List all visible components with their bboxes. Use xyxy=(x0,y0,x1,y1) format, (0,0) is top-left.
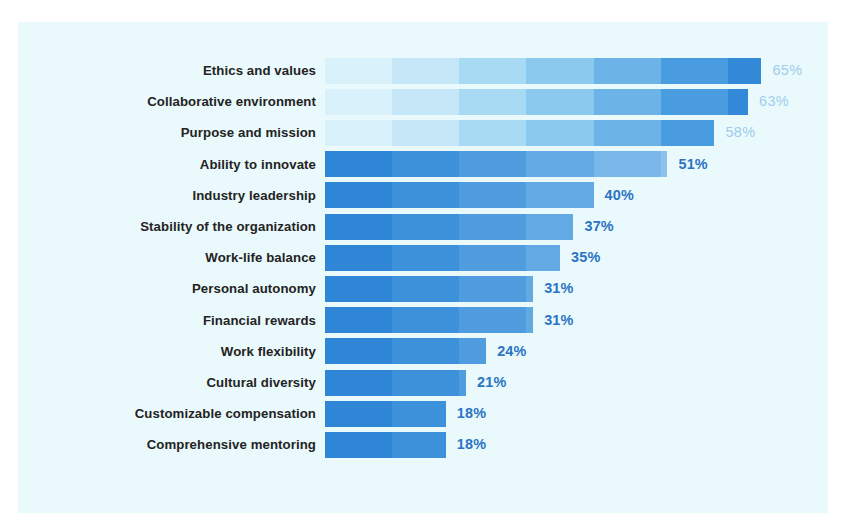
bar-fill xyxy=(325,58,761,84)
bar-category-label: Work flexibility xyxy=(221,336,316,367)
bar-fill xyxy=(325,338,486,364)
bar-fill xyxy=(325,401,446,427)
bar-track: 31% xyxy=(325,307,795,333)
bar-color-band xyxy=(526,245,560,271)
bar-row: Ability to innovate51% xyxy=(18,149,828,180)
bar-color-band xyxy=(325,245,392,271)
bar-row: Collaborative environment63% xyxy=(18,86,828,117)
bar-row: Cultural diversity21% xyxy=(18,367,828,398)
bar-track: 58% xyxy=(325,120,795,146)
bar-color-band xyxy=(459,245,526,271)
bar-track: 40% xyxy=(325,182,795,208)
bar-fill xyxy=(325,245,560,271)
bar-color-band xyxy=(392,120,459,146)
bar-color-band xyxy=(526,151,593,177)
bar-fill xyxy=(325,370,466,396)
bar-row: Personal autonomy31% xyxy=(18,273,828,304)
bar-track: 24% xyxy=(325,338,795,364)
bar-color-band xyxy=(325,276,392,302)
bar-category-label: Work-life balance xyxy=(205,242,316,273)
bar-color-band xyxy=(459,58,526,84)
bar-row: Stability of the organization37% xyxy=(18,211,828,242)
bar-value-label: 65% xyxy=(772,55,802,86)
bar-fill xyxy=(325,182,594,208)
bar-color-band xyxy=(526,120,593,146)
bar-value-label: 31% xyxy=(544,305,573,336)
bar-category-label: Stability of the organization xyxy=(140,211,316,242)
bar-color-band xyxy=(526,307,533,333)
bar-fill xyxy=(325,151,667,177)
bar-color-band xyxy=(392,432,446,458)
bar-value-label: 24% xyxy=(497,336,526,367)
bar-track: 18% xyxy=(325,401,795,427)
bar-category-label: Ethics and values xyxy=(203,55,316,86)
bar-color-band xyxy=(526,276,533,302)
bar-category-label: Purpose and mission xyxy=(181,117,316,148)
bar-fill xyxy=(325,307,533,333)
bar-color-band xyxy=(459,151,526,177)
bar-color-band xyxy=(325,401,392,427)
bar-color-band xyxy=(526,58,593,84)
bar-track: 35% xyxy=(325,245,795,271)
bar-track: 51% xyxy=(325,151,795,177)
bar-color-band xyxy=(392,214,459,240)
bar-color-band xyxy=(325,214,392,240)
bar-color-band xyxy=(526,182,593,208)
bar-fill xyxy=(325,432,446,458)
bar-color-band xyxy=(325,307,392,333)
bar-color-band xyxy=(526,89,593,115)
bar-value-label: 63% xyxy=(759,86,789,117)
bar-color-band xyxy=(325,89,392,115)
bar-value-label: 35% xyxy=(571,242,600,273)
bar-color-band xyxy=(325,58,392,84)
bar-color-band xyxy=(594,120,661,146)
bar-category-label: Customizable compensation xyxy=(135,398,316,429)
bar-value-label: 18% xyxy=(457,398,486,429)
bar-color-band xyxy=(325,432,392,458)
bar-category-label: Industry leadership xyxy=(192,180,316,211)
bar-color-band xyxy=(661,151,668,177)
bar-row: Ethics and values65% xyxy=(18,55,828,86)
bar-color-band xyxy=(325,182,392,208)
bar-color-band xyxy=(325,120,392,146)
bar-row: Comprehensive mentoring18% xyxy=(18,429,828,460)
bar-color-band xyxy=(728,89,748,115)
bar-color-band xyxy=(594,89,661,115)
bar-color-band xyxy=(459,307,526,333)
bar-color-band xyxy=(661,89,728,115)
chart-panel: Ethics and values65%Collaborative enviro… xyxy=(18,22,828,513)
bar-color-band xyxy=(392,58,459,84)
bar-color-band xyxy=(728,58,762,84)
bar-color-band xyxy=(661,58,728,84)
bar-color-band xyxy=(392,276,459,302)
bar-category-label: Comprehensive mentoring xyxy=(147,429,316,460)
bar-row: Purpose and mission58% xyxy=(18,117,828,148)
bar-row: Industry leadership40% xyxy=(18,180,828,211)
bar-row: Customizable compensation18% xyxy=(18,398,828,429)
bar-category-label: Collaborative environment xyxy=(147,86,316,117)
bar-value-label: 31% xyxy=(544,273,573,304)
bar-color-band xyxy=(526,214,573,240)
bar-fill xyxy=(325,89,748,115)
bar-color-band xyxy=(392,151,459,177)
bar-color-band xyxy=(392,182,459,208)
bar-category-label: Financial rewards xyxy=(203,305,316,336)
bar-color-band xyxy=(392,370,459,396)
bar-color-band xyxy=(459,370,466,396)
bar-row: Work flexibility24% xyxy=(18,336,828,367)
bar-track: 37% xyxy=(325,214,795,240)
bar-category-label: Ability to innovate xyxy=(200,149,316,180)
bar-color-band xyxy=(459,120,526,146)
plot-area: Ethics and values65%Collaborative enviro… xyxy=(18,22,828,513)
bar-track: 21% xyxy=(325,370,795,396)
bar-color-band xyxy=(459,214,526,240)
bar-color-band xyxy=(459,182,526,208)
bar-color-band xyxy=(459,338,486,364)
bar-color-band xyxy=(459,89,526,115)
bar-value-label: 51% xyxy=(678,149,707,180)
bar-color-band xyxy=(392,307,459,333)
bar-row: Work-life balance35% xyxy=(18,242,828,273)
bar-category-label: Personal autonomy xyxy=(192,273,316,304)
bar-value-label: 40% xyxy=(605,180,634,211)
bar-color-band xyxy=(392,401,446,427)
